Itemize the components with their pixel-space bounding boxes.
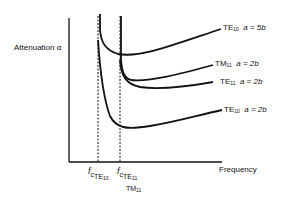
curve-te10-a5b <box>100 14 221 55</box>
y-axis-label: Attenuation α <box>14 44 61 52</box>
curve-label-tm11-a2b: TM11 a = 2b <box>215 60 259 68</box>
cutoff-label-tm11: TM11 <box>126 185 141 193</box>
cutoff-label-te11-tm11: fcTE11 <box>117 167 137 176</box>
curve-tm11-a2b <box>121 16 213 80</box>
curve-label-te11-a2b: TE11 a = 2b <box>220 78 262 86</box>
x-axis-label: Frequency <box>219 166 257 174</box>
curve-te11-a2b <box>120 60 213 88</box>
curve-label-te10-a5b: TE10 a = 5b <box>223 24 266 32</box>
curve-label-te10-a2b: TE10 a = 2b <box>224 106 267 114</box>
cutoff-label-te10: fcTE10 <box>88 167 109 176</box>
